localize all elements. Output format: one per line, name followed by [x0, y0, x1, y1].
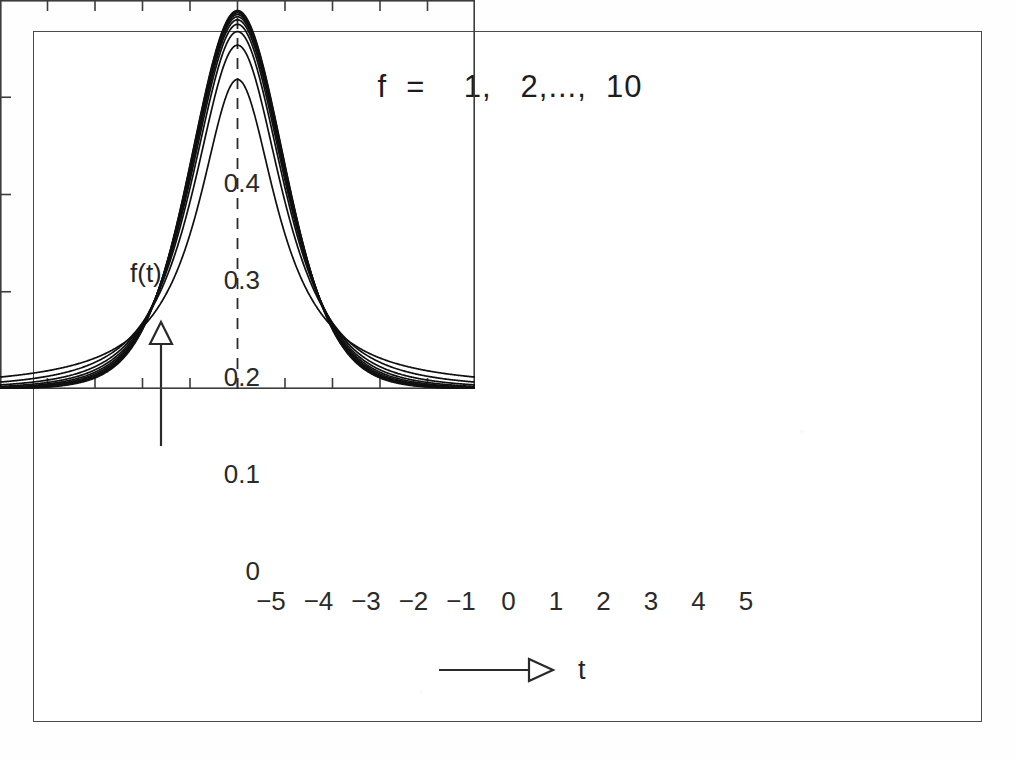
- x-tick-label-0: −5: [256, 586, 286, 617]
- x-tick-label-7: 2: [596, 586, 610, 617]
- right-arrow-outline-icon: [437, 655, 557, 685]
- scan-noise-speck: [210, 120, 213, 123]
- scan-noise-speck: [800, 430, 804, 433]
- x-tick-label-1: −4: [304, 586, 334, 617]
- scan-noise-speck: [420, 690, 423, 693]
- x-axis-label: t: [578, 655, 586, 686]
- x-tick-label-10: 5: [739, 586, 753, 617]
- x-axis-tick-labels: −5 −4 −3 −2 −1 0 1 2 3 4 5: [271, 586, 746, 626]
- x-tick-label-5: 0: [501, 586, 515, 617]
- y-tick-label-3: 0.1: [150, 459, 260, 490]
- x-tick-label-4: −1: [446, 586, 476, 617]
- density-curve: [0, 45, 475, 382]
- x-tick-label-8: 3: [644, 586, 658, 617]
- x-tick-label-2: −3: [351, 586, 381, 617]
- x-tick-label-6: 1: [549, 586, 563, 617]
- y-tick-label-4: 0: [150, 556, 260, 587]
- x-tick-label-9: 4: [691, 586, 705, 617]
- figure-page: f = 1, 2,..., 10 0.4 0.3 0.2 0.1 0 f(t) …: [0, 0, 1017, 759]
- plot-canvas: [0, 0, 475, 389]
- x-tick-label-3: −2: [399, 586, 429, 617]
